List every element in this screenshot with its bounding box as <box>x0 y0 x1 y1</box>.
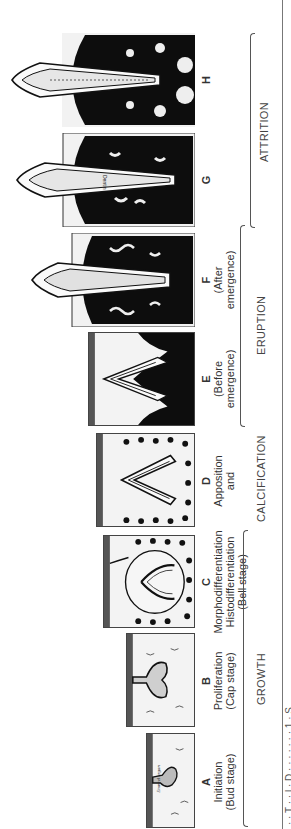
panel-stage-d <box>96 433 195 527</box>
tooth-f-illustration <box>30 233 195 327</box>
stage-label-f: F (After emergence) <box>200 232 236 328</box>
stage-label-c: C Morphodifferentiation Histodifferentia… <box>200 527 248 637</box>
stage-label-g: G <box>200 132 212 228</box>
attrition-bracket <box>250 33 255 228</box>
panel-stage-a: Enamel organ <box>146 733 195 828</box>
panel-stage-h <box>10 33 195 127</box>
tooth-c-illustration <box>104 536 194 627</box>
figure-caption-cropped: · · T · · l · D · · · · · · · 1 · S <box>284 585 291 825</box>
phase-label-growth: GROWTH <box>255 653 267 705</box>
panel-stage-c <box>103 535 195 628</box>
growth-bracket <box>243 530 248 827</box>
panel-stage-f <box>30 233 195 327</box>
divider-rule <box>282 0 283 829</box>
tooth-g-illustration: Dentin <box>15 133 195 227</box>
tooth-development-diagram: Dentin <box>0 0 291 829</box>
tooth-a-illustration: Enamel organ <box>147 734 194 827</box>
panel-stage-e <box>88 332 195 426</box>
eruption-bracket <box>240 225 245 427</box>
stage-label-b: B Proliferation (Cap stage) <box>200 633 236 729</box>
stage-label-h: H <box>200 32 212 128</box>
panel-stage-g: Dentin <box>15 133 195 227</box>
stage-label-a: A Initiation (Bud stage) <box>200 734 236 829</box>
stage-label-e: E (Before emergence) <box>200 331 236 427</box>
tooth-h-illustration <box>10 33 195 127</box>
tooth-b-illustration <box>127 634 194 726</box>
tooth-d-illustration <box>97 434 194 526</box>
tooth-e-illustration <box>89 333 194 425</box>
phase-label-attrition: ATTRITION <box>258 102 270 162</box>
phase-label-calcification: CALCIFICATION <box>255 435 267 522</box>
dentin-inner-label: Dentin <box>102 175 108 190</box>
enamel-organ-inner-label: Enamel organ <box>156 765 161 794</box>
stage-label-d: D Apposition and <box>200 433 236 529</box>
panel-stage-b <box>126 633 195 727</box>
phase-label-eruption: ERUPTION <box>255 296 267 355</box>
